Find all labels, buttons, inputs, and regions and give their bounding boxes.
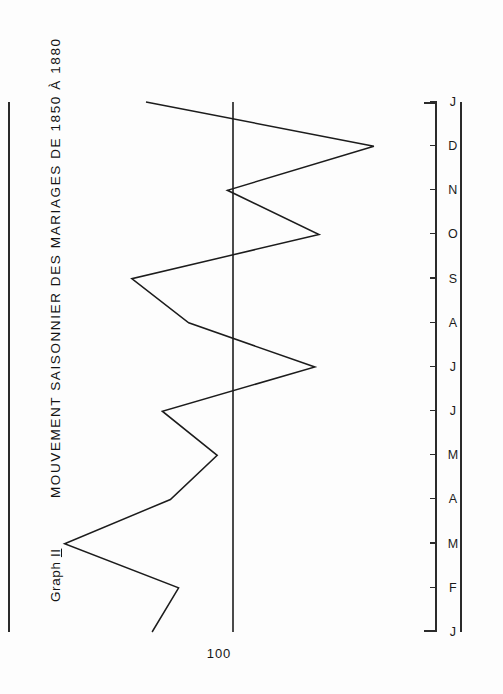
figure-number-value: II	[48, 549, 63, 558]
series-polyline	[65, 102, 374, 632]
x-tick-label-9: O	[448, 228, 458, 242]
figure-title: MOUVEMENT SAISONNIER DES MARIAGES DE 185…	[48, 37, 63, 498]
series-line-marriages	[30, 102, 437, 632]
rotated-figure-canvas: J F M A M J J A S O N D J	[0, 0, 503, 694]
x-tick-label-4: M	[448, 448, 459, 462]
figure-number-prefix: Graph	[48, 561, 63, 602]
x-tick-label-1: F	[449, 581, 457, 595]
frame-rule-top	[8, 102, 10, 632]
figure-page: J F M A M J J A S O N D J	[0, 0, 503, 694]
x-tick-label-10: N	[448, 183, 457, 197]
x-tick-label-3: A	[449, 493, 458, 507]
x-tick-label-2: M	[448, 537, 459, 551]
x-tick-label-8: S	[449, 272, 458, 286]
x-tick-label-11: D	[448, 139, 457, 153]
x-tick-label-0: J	[450, 625, 457, 639]
plot-area: J F M A M J J A S O N D J	[30, 102, 437, 632]
figure-number: Graph II	[48, 549, 63, 602]
frame-rule-bottom	[460, 102, 462, 632]
x-tick-label-6: J	[450, 360, 457, 374]
reference-line-label: 100	[206, 646, 231, 661]
x-tick-label-7: A	[449, 316, 458, 330]
x-tick-label-12: J	[450, 95, 457, 109]
x-tick-label-5: J	[450, 404, 457, 418]
